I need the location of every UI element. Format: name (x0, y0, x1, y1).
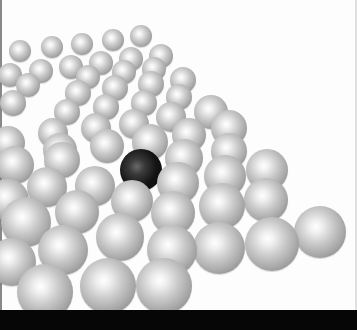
silver-sphere (90, 129, 124, 163)
silver-sphere (0, 90, 26, 116)
silver-sphere (80, 258, 136, 314)
bottom-black-bar (0, 310, 357, 330)
silver-sphere (41, 36, 63, 58)
silver-sphere (136, 258, 192, 314)
silver-sphere (294, 206, 346, 258)
silver-sphere (193, 222, 245, 274)
silver-sphere (130, 25, 152, 47)
silver-sphere (102, 29, 124, 51)
silver-sphere (9, 40, 31, 62)
silver-sphere (245, 217, 299, 271)
silver-sphere (244, 178, 288, 222)
rendered-sphere-lattice: 3D rendering of a lattice of silver sphe… (0, 0, 357, 330)
silver-sphere (71, 33, 93, 55)
silver-sphere (96, 213, 144, 261)
